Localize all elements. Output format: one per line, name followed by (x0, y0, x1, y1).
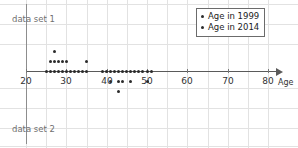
x-tick-mark (26, 69, 27, 73)
data-point (61, 70, 64, 73)
data-point (73, 70, 76, 73)
data-point (141, 70, 144, 73)
data-point (53, 70, 56, 73)
grid-line-horizontal (0, 108, 298, 109)
legend-label-1999: Age in 1999 (208, 11, 259, 22)
data-point (121, 80, 124, 83)
x-tick-label: 80 (258, 76, 278, 86)
data-point (146, 70, 149, 73)
legend-label-2014: Age in 2014 (208, 22, 259, 33)
data-point (81, 70, 84, 73)
data-point (85, 60, 88, 63)
x-tick-label: 30 (56, 76, 76, 86)
grid-line-horizontal (0, 4, 298, 5)
data-point (57, 60, 60, 63)
dataset-1-label: data set 1 (12, 14, 55, 24)
data-point (65, 60, 68, 63)
grid-line-vertical (87, 0, 88, 148)
data-point (125, 70, 128, 73)
data-point (57, 70, 60, 73)
data-point (146, 80, 149, 83)
x-tick-label: 70 (218, 76, 238, 86)
x-tick-mark (187, 69, 188, 73)
grid-line-vertical (107, 0, 108, 148)
data-point (150, 70, 153, 73)
data-point (101, 70, 104, 73)
legend-item-2014: Age in 2014 (201, 22, 259, 33)
data-point (49, 60, 52, 63)
grid-line-vertical (268, 0, 269, 148)
data-point (53, 50, 56, 53)
grid-line-vertical (147, 0, 148, 148)
x-axis-label: Age (278, 78, 293, 87)
data-point (85, 70, 88, 73)
data-point (109, 70, 112, 73)
data-point (65, 70, 68, 73)
data-point (53, 60, 56, 63)
data-point (129, 80, 132, 83)
data-point (129, 70, 132, 73)
legend-marker-dot-icon (201, 26, 204, 29)
grid-line-vertical (127, 0, 128, 148)
data-point (69, 70, 72, 73)
data-point (105, 70, 108, 73)
x-tick-mark (268, 69, 269, 73)
x-tick-label: 40 (97, 76, 117, 86)
grid-line-horizontal (0, 146, 298, 147)
data-point (117, 80, 120, 83)
y-axis-line (26, 4, 27, 144)
legend: Age in 1999 Age in 2014 (196, 8, 265, 37)
data-point (109, 80, 112, 83)
grid-line-vertical (187, 0, 188, 148)
data-point (49, 70, 52, 73)
data-point (113, 70, 116, 73)
data-point (45, 70, 48, 73)
data-point (117, 90, 120, 93)
data-point (121, 70, 124, 73)
x-tick-label: 20 (16, 76, 36, 86)
data-point (117, 70, 120, 73)
grid-line-horizontal (0, 88, 298, 89)
legend-marker-dot-icon (201, 15, 204, 18)
data-point (133, 70, 136, 73)
grid-line-vertical (167, 0, 168, 148)
grid-line-horizontal (0, 44, 298, 45)
grid-line-vertical (66, 0, 67, 148)
x-tick-label: 60 (177, 76, 197, 86)
data-point (137, 70, 140, 73)
data-point (77, 70, 80, 73)
dataset-2-label: data set 2 (12, 124, 55, 134)
dot-plot-chart: 20304050607080 Age data set 1 data set 2… (0, 0, 298, 148)
legend-item-1999: Age in 1999 (201, 11, 259, 22)
x-tick-mark (228, 69, 229, 73)
x-axis-arrow-icon (276, 68, 283, 76)
data-point (61, 60, 64, 63)
